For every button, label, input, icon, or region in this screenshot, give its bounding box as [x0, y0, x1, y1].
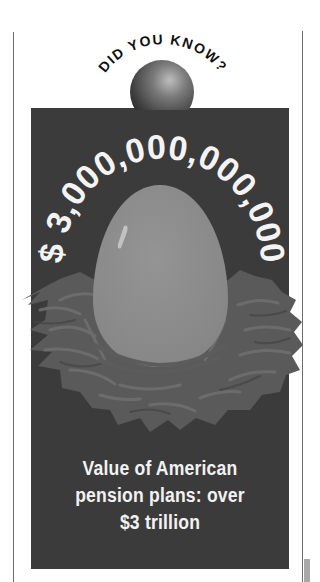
caption-line-1: Value of American — [46, 455, 273, 482]
caption-line-3: $3 trillion — [46, 509, 273, 536]
caption-line-2: pension plans: over — [46, 482, 273, 509]
egg-icon — [93, 185, 228, 367]
sphere-ornament — [130, 60, 194, 124]
caption: Value of American pension plans: over $3… — [46, 455, 273, 536]
